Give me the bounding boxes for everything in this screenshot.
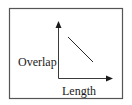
x-axis-arrow-icon [106, 76, 113, 82]
x-axis-label: Length [62, 84, 96, 98]
y-axis-label: Overlap [18, 55, 57, 69]
overlap-vs-length-diagram: Overlap Length [0, 0, 132, 105]
y-axis-arrow-icon [56, 21, 62, 28]
trend-line [68, 37, 93, 62]
